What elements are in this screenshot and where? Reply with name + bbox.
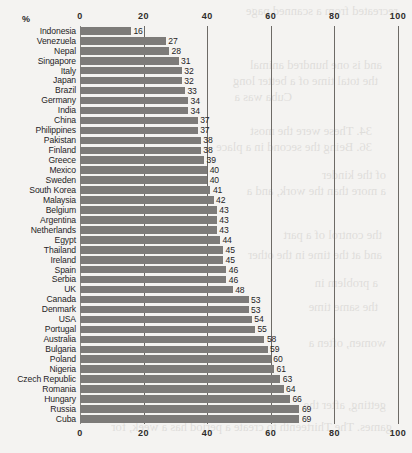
bar [80, 107, 188, 115]
value-label: 37 [200, 115, 209, 125]
category-label: Romania [0, 384, 76, 394]
gridline-20 [144, 26, 145, 424]
plot-area: Indonesia16Venezuela27Nepal28Singapore31… [80, 26, 398, 424]
category-label: Cuba [0, 414, 76, 424]
category-label: Venezuela [0, 36, 76, 46]
category-label: Ireland [0, 255, 76, 265]
category-label: Brazil [0, 85, 76, 95]
category-label: Nepal [0, 46, 76, 56]
bar [80, 147, 201, 155]
bar [80, 37, 166, 45]
value-label: 32 [184, 76, 193, 86]
bar [80, 27, 131, 35]
bar-row: Romania64 [80, 385, 398, 393]
category-label: Germany [0, 95, 76, 105]
category-label: USA [0, 314, 76, 324]
category-label: Canada [0, 294, 76, 304]
bar [80, 176, 207, 184]
value-label: 37 [200, 125, 209, 135]
bar-row: Hungary66 [80, 395, 398, 403]
bar-row: Nigeria61 [80, 365, 398, 373]
bar [80, 57, 179, 65]
bar [80, 405, 299, 413]
bar-row: Italy32 [80, 67, 398, 75]
bar [80, 296, 249, 304]
bar [80, 166, 207, 174]
gridline-80 [334, 26, 335, 424]
bar-row: Philippines37 [80, 127, 398, 135]
bar-row: Poland60 [80, 355, 398, 363]
bar-row: Greece39 [80, 156, 398, 164]
value-label: 42 [216, 195, 225, 205]
x-axis-bottom: 020406080100 [80, 428, 398, 440]
value-label: 34 [191, 106, 200, 116]
category-label: Pakistan [0, 135, 76, 145]
bar [80, 156, 204, 164]
bar [80, 236, 220, 244]
bar [80, 415, 299, 423]
bar-row: Finland38 [80, 147, 398, 155]
category-label: Japan [0, 75, 76, 85]
x-axis-top: 020406080100 [80, 11, 398, 23]
bar-row: Thailand45 [80, 246, 398, 254]
bar [80, 395, 290, 403]
bar [80, 127, 198, 135]
category-label: Philippines [0, 125, 76, 135]
category-label: Hungary [0, 394, 76, 404]
bar-row: China37 [80, 117, 398, 125]
bar-row: Argentina43 [80, 216, 398, 224]
category-label: Spain [0, 265, 76, 275]
x-tick-top-60: 60 [265, 11, 276, 21]
category-label: South Korea [0, 185, 76, 195]
value-label: 40 [210, 165, 219, 175]
value-label: 34 [191, 96, 200, 106]
bar-row: UK48 [80, 286, 398, 294]
bar-row: Czech Republic63 [80, 375, 398, 383]
value-label: 16 [133, 26, 142, 36]
value-label: 59 [270, 344, 279, 354]
category-label: Bulgaria [0, 344, 76, 354]
value-label: 69 [302, 404, 311, 414]
bar-row: Russia69 [80, 405, 398, 413]
value-label: 54 [254, 314, 263, 324]
bar [80, 316, 252, 324]
bar [80, 206, 217, 214]
bar-row: Singapore31 [80, 57, 398, 65]
value-label: 63 [283, 374, 292, 384]
category-label: Indonesia [0, 26, 76, 36]
value-label: 27 [168, 36, 177, 46]
bar-row: Serbia46 [80, 276, 398, 284]
bar-row: Malaysia42 [80, 196, 398, 204]
bar-row: USA54 [80, 316, 398, 324]
category-label: Netherlands [0, 225, 76, 235]
value-label: 43 [219, 225, 228, 235]
bar [80, 355, 271, 363]
bar [80, 186, 210, 194]
value-label: 69 [302, 414, 311, 424]
bar-row: Spain46 [80, 266, 398, 274]
x-tick-top-80: 80 [329, 11, 340, 21]
category-label: Australia [0, 334, 76, 344]
x-tick-top-100: 100 [390, 11, 407, 21]
bar-row: Denmark53 [80, 306, 398, 314]
value-label: 43 [219, 205, 228, 215]
value-label: 31 [181, 56, 190, 66]
bar [80, 256, 223, 264]
bar [80, 226, 217, 234]
bar-row: India34 [80, 107, 398, 115]
value-label: 44 [222, 235, 231, 245]
category-label: Thailand [0, 245, 76, 255]
bar-row: Egypt44 [80, 236, 398, 244]
bar [80, 385, 284, 393]
value-label: 38 [203, 135, 212, 145]
value-label: 48 [235, 285, 244, 295]
value-label: 33 [187, 86, 196, 96]
bar-row: Germany34 [80, 97, 398, 105]
value-label: 32 [184, 66, 193, 76]
bar [80, 306, 249, 314]
category-label: Nigeria [0, 364, 76, 374]
value-label: 58 [267, 334, 276, 344]
x-tick-top-40: 40 [202, 11, 213, 21]
value-label: 64 [286, 384, 295, 394]
gridline-40 [207, 26, 208, 424]
